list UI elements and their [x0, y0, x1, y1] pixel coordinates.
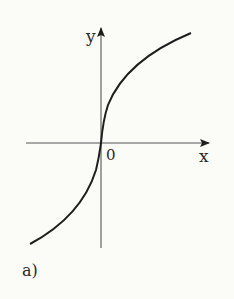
origin-label: 0 [106, 146, 116, 164]
x-axis-label: x [199, 146, 209, 166]
function-curve [30, 33, 191, 244]
panel-label: a) [22, 261, 38, 280]
function-graph: y 0 x a) [0, 0, 234, 299]
y-axis-label: y [85, 26, 96, 46]
